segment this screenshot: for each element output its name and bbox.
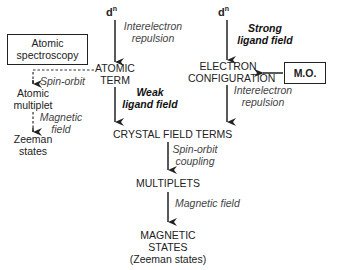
edge-label-interelectron-repulsion-right: Interelectron repulsion	[232, 84, 294, 108]
electron-configuration-node: ELECTRON CONFIGURATION	[188, 60, 268, 84]
label-line: spectroscopy	[8, 49, 87, 61]
label-line: repulsion	[122, 32, 184, 44]
label-line: ligand field	[235, 34, 295, 46]
label-line: MAGNETIC	[128, 229, 208, 241]
label-line: ligand field	[120, 98, 180, 110]
dn-left-base: d	[106, 6, 113, 18]
dn-left-superscript: n	[113, 5, 117, 12]
multiplets-node: MULTIPLETS	[135, 177, 201, 189]
label-line: Atomic	[8, 87, 58, 99]
label-line: Interelectron	[232, 84, 294, 96]
edge-label-strong-ligand-field: Strong ligand field	[235, 22, 295, 46]
label-line: ATOMIC	[90, 62, 140, 74]
label-line: (Zeeman states)	[128, 253, 208, 265]
label-line: Spin-orbit	[170, 143, 220, 155]
atomic-spectroscopy-label: Atomic spectroscopy	[8, 37, 87, 61]
label-line: CONFIGURATION	[188, 72, 268, 84]
edge-label-weak-ligand-field: Weak ligand field	[120, 86, 180, 110]
atomic-term-node: ATOMIC TERM	[90, 62, 140, 86]
label-line: Weak	[120, 86, 180, 98]
label-line: ELECTRON	[188, 60, 268, 72]
label-line: STATES	[128, 241, 208, 253]
dn-right-base: d	[218, 6, 225, 18]
label-line: Interelectron	[122, 20, 184, 32]
label-line: states	[10, 145, 56, 157]
label-line: Atomic	[8, 37, 87, 49]
label-line: Magnetic	[38, 111, 84, 123]
label-line: coupling	[170, 155, 220, 167]
label-line: multiplet	[8, 99, 58, 111]
edge-label-spin-orbit-coupling: Spin-orbit coupling	[170, 143, 220, 167]
zeeman-states-node: Zeeman states	[10, 133, 56, 157]
atomic-multiplet-node: Atomic multiplet	[8, 87, 58, 111]
magnetic-states-node: MAGNETIC STATES (Zeeman states)	[128, 229, 208, 265]
label-line: Strong	[235, 22, 295, 34]
dn-left-node: dn	[106, 3, 117, 18]
edge-label-magnetic-field: Magnetic field	[175, 197, 240, 209]
atomic-spectroscopy-box: Atomic spectroscopy	[7, 34, 88, 65]
label-line: Zeeman	[10, 133, 56, 145]
mo-box: M.O.	[284, 62, 326, 84]
crystal-field-terms-node: CRYSTAL FIELD TERMS	[113, 128, 225, 140]
label-line: TERM	[90, 74, 140, 86]
edge-label-spin-orbit-left: Spin-orbit	[40, 75, 85, 87]
label-line: repulsion	[232, 96, 294, 108]
mo-label: M.O.	[285, 67, 325, 79]
dn-right-node: dn	[218, 3, 229, 18]
dn-right-superscript: n	[225, 5, 229, 12]
edge-label-magnetic-field-left: Magnetic field	[38, 111, 84, 135]
edge-label-interelectron-repulsion-left: Interelectron repulsion	[122, 20, 184, 44]
